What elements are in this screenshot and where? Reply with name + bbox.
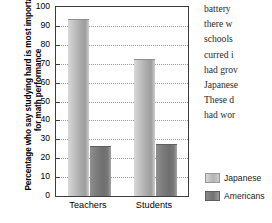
y-axis-tick-mark [56,45,60,46]
legend-swatch-icon [205,191,220,201]
legend-item-americans: Americans [205,188,272,203]
legend-swatch-icon [205,173,220,183]
figure-page: Percentage who say studying hard is most… [0,0,272,223]
body-text-line: curred i [204,47,272,62]
x-axis-tick-label: Students [136,200,172,211]
bar-americans-teachers [90,146,111,196]
body-text-line: had wor [204,107,272,122]
y-axis-tick-label: 0 [45,191,50,200]
y-axis-tick-mark [56,83,60,84]
y-axis-tick-label: 70 [40,58,50,67]
body-text-line: These d [204,92,272,107]
y-axis-tick-label: 90 [40,20,50,29]
legend-item-label: Japanese [224,173,261,183]
y-axis-tick-mark [56,64,60,65]
y-axis-tick-mark [56,102,60,103]
y-axis-tick-label: 60 [40,77,50,86]
bar-americans-students [156,144,177,196]
bar-japanese-students [134,59,155,196]
y-axis-tick-label: 100 [36,2,50,11]
y-axis-tick-mark [56,26,60,27]
legend-item-label: Americans [224,191,265,201]
y-axis-tick-mark [56,177,60,178]
y-axis-tick-label: 20 [40,153,50,162]
legend-item-japanese: Japanese [205,170,272,185]
body-text-line: battery [204,1,272,16]
bar-japanese-teachers [68,19,89,196]
x-axis-tick-labels: TeachersStudents [55,200,189,216]
body-text-line: schools [204,31,272,46]
y-axis-tick-label: 30 [40,134,50,143]
y-axis-tick-label: 50 [40,96,50,105]
y-axis-tick-label: 10 [40,172,50,181]
x-axis-tick-label: Teachers [69,200,106,211]
y-axis-tick-mark [56,139,60,140]
y-axis-tick-label: 80 [40,39,50,48]
bar-chart-figure: Percentage who say studying hard is most… [0,0,196,223]
y-axis-tick-label: 40 [40,115,50,124]
body-text-column: batterythere wschoolscurred ihad grovJap… [204,1,272,151]
body-text-line: there w [204,16,272,31]
body-text-line: had grov [204,62,272,77]
plot-area [55,6,189,197]
y-axis-tick-mark [56,158,60,159]
y-axis-tick-labels: 0102030405060708090100 [26,6,53,197]
y-axis-tick-mark [56,120,60,121]
body-text-line: Japanese [204,77,272,92]
chart-legend: JapaneseAmericans [205,170,272,206]
